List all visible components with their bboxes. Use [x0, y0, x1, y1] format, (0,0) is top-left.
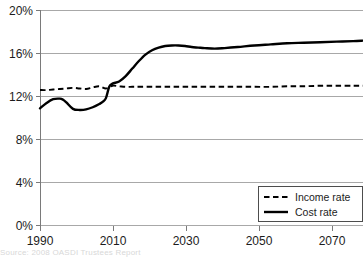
chart-container: 20% 16% 12% 8% 4% 0% 1990 2010 2030 2050…	[0, 0, 363, 258]
y-axis-label-20: 20%	[9, 4, 33, 18]
x-axis-labels: 1990 2010 2030 2050 2070	[27, 234, 346, 248]
x-axis-label-2070: 2070	[319, 234, 346, 248]
y-axis-ticks	[36, 11, 40, 226]
y-axis-label-16: 16%	[9, 47, 33, 61]
legend-label-income-rate: Income rate	[295, 191, 351, 203]
x-axis-label-2010: 2010	[100, 234, 127, 248]
x-axis-label-2030: 2030	[173, 234, 200, 248]
legend-label-cost-rate: Cost rate	[295, 206, 338, 218]
y-axis-label-0: 0%	[16, 219, 34, 233]
x-axis-label-1990: 1990	[27, 234, 54, 248]
x-axis-label-2050: 2050	[246, 234, 273, 248]
y-axis-label-4: 4%	[16, 176, 34, 190]
x-axis-ticks	[41, 226, 333, 231]
line-chart: 20% 16% 12% 8% 4% 0% 1990 2010 2030 2050…	[0, 0, 363, 258]
y-axis-label-8: 8%	[16, 133, 34, 147]
y-axis-labels: 20% 16% 12% 8% 4% 0%	[9, 4, 33, 233]
chart-legend: Income rate Cost rate	[258, 186, 362, 221]
source-caption: Source: 2008 OASDI Trustees Report	[0, 248, 363, 258]
y-axis-label-12: 12%	[9, 90, 33, 104]
